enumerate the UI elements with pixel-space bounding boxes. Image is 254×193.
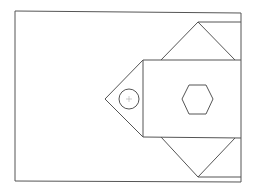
center-rect [143,60,241,138]
diagram-canvas [0,0,254,193]
left-triangle [105,60,143,137]
bottom-triangle [161,137,235,177]
hexagon [182,85,213,114]
top-triangle [161,22,235,60]
outer-frame [15,11,241,182]
